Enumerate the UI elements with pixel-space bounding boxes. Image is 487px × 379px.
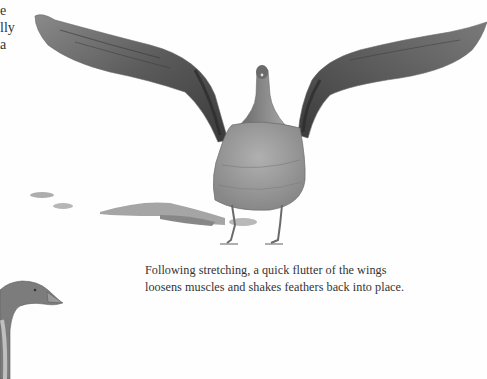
goose-head xyxy=(256,65,268,79)
goose-illustration xyxy=(0,0,487,379)
goose-leg-right xyxy=(271,205,282,243)
book-page: e lly a xyxy=(0,0,487,379)
caption-line-2: loosens muscles and shakes feathers back… xyxy=(145,279,445,296)
caption-line-1: Following stretching, a quick flutter of… xyxy=(145,262,445,279)
goose-head-partial xyxy=(0,281,63,379)
right-wing xyxy=(298,22,487,138)
illustration-caption: Following stretching, a quick flutter of… xyxy=(145,262,445,295)
